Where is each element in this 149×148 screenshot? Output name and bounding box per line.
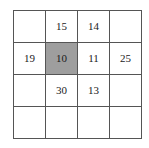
table-row: 15 14 — [14, 11, 142, 43]
grid-cell-r2c2[interactable]: 13 — [78, 75, 110, 107]
grid-cell-r3c3[interactable] — [110, 107, 142, 139]
grid-cell-r3c0[interactable] — [14, 107, 46, 139]
table-row: 30 13 — [14, 75, 142, 107]
grid-cell-r1c2[interactable]: 11 — [78, 43, 110, 75]
grid-cell-r3c1[interactable] — [46, 107, 78, 139]
grid-cell-r0c2[interactable]: 14 — [78, 11, 110, 43]
number-grid: 15 14 19 10 11 25 30 13 — [13, 10, 142, 139]
page-root: 15 14 19 10 11 25 30 13 — [0, 0, 149, 148]
grid-cell-r0c1[interactable]: 15 — [46, 11, 78, 43]
grid-cell-r0c0[interactable] — [14, 11, 46, 43]
grid-cell-r2c0[interactable] — [14, 75, 46, 107]
table-row — [14, 107, 142, 139]
grid-cell-r2c1[interactable]: 30 — [46, 75, 78, 107]
grid-cell-r1c1-highlighted[interactable]: 10 — [46, 43, 78, 75]
grid-cell-r2c3[interactable] — [110, 75, 142, 107]
grid-cell-r1c0[interactable]: 19 — [14, 43, 46, 75]
table-row: 19 10 11 25 — [14, 43, 142, 75]
grid-cell-r1c3[interactable]: 25 — [110, 43, 142, 75]
grid-body: 15 14 19 10 11 25 30 13 — [14, 11, 142, 139]
grid-cell-r0c3[interactable] — [110, 11, 142, 43]
grid-cell-r3c2[interactable] — [78, 107, 110, 139]
